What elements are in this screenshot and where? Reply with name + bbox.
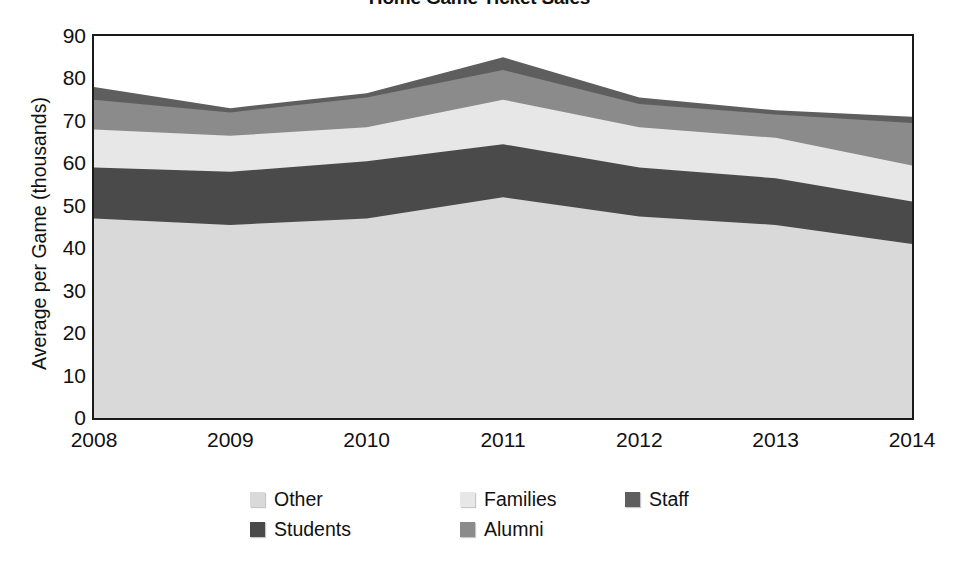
chart-title: Home Game Ticket Sales bbox=[0, 0, 959, 9]
legend-item-other[interactable]: Other bbox=[250, 488, 323, 510]
legend-label: Staff bbox=[649, 488, 689, 510]
x-axis-tick-labels: 2008200920102011201220132014 bbox=[0, 428, 959, 462]
chart-container: Home Game Ticket Sales Average per Game … bbox=[0, 0, 959, 563]
legend-item-families[interactable]: Families bbox=[460, 488, 557, 510]
x-tick-label: 2008 bbox=[49, 428, 139, 452]
legend-swatch-staff bbox=[625, 492, 640, 507]
x-tick-label: 2011 bbox=[458, 428, 548, 452]
y-tick-label: 20 bbox=[26, 322, 86, 343]
legend-item-staff[interactable]: Staff bbox=[625, 488, 689, 510]
y-tick-label: 60 bbox=[26, 152, 86, 173]
legend-label: Other bbox=[274, 488, 323, 510]
y-tick-label: 40 bbox=[26, 237, 86, 258]
x-tick-label: 2010 bbox=[322, 428, 412, 452]
y-tick-label: 80 bbox=[26, 67, 86, 88]
y-tick-label: 30 bbox=[26, 280, 86, 301]
y-tick-label: 70 bbox=[26, 110, 86, 131]
legend-label: Alumni bbox=[484, 518, 544, 540]
x-tick-label: 2014 bbox=[867, 428, 957, 452]
legend-label: Students bbox=[274, 518, 351, 540]
area-series-other bbox=[94, 197, 912, 418]
y-tick-label: 90 bbox=[26, 25, 86, 46]
legend-item-alumni[interactable]: Alumni bbox=[460, 518, 544, 540]
legend-swatch-other bbox=[250, 492, 265, 507]
legend-item-students[interactable]: Students bbox=[250, 518, 351, 540]
x-tick-label: 2009 bbox=[185, 428, 275, 452]
x-tick-label: 2012 bbox=[594, 428, 684, 452]
legend-label: Families bbox=[484, 488, 557, 510]
chart-legend: OtherFamiliesStaffStudentsAlumni bbox=[250, 488, 720, 548]
y-tick-label: 50 bbox=[26, 195, 86, 216]
plot-area bbox=[92, 34, 914, 420]
legend-swatch-families bbox=[460, 492, 475, 507]
stacked-area-svg bbox=[94, 36, 912, 418]
legend-swatch-students bbox=[250, 522, 265, 537]
y-tick-label: 0 bbox=[26, 407, 86, 428]
y-axis-tick-labels: 0102030405060708090 bbox=[18, 0, 86, 563]
x-tick-label: 2013 bbox=[731, 428, 821, 452]
y-tick-label: 10 bbox=[26, 365, 86, 386]
legend-swatch-alumni bbox=[460, 522, 475, 537]
